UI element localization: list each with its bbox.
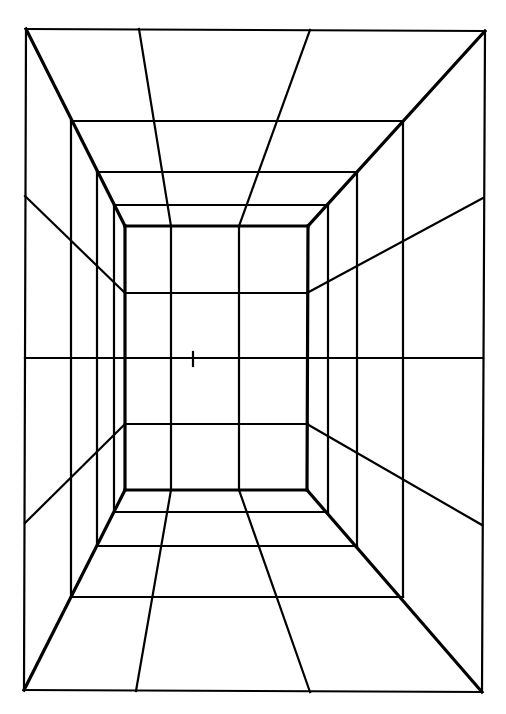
outer-frame-line <box>482 31 485 692</box>
outer-frame-line <box>24 29 26 690</box>
outer-frame-line <box>24 690 482 692</box>
perspective-room-drawing: One-point perspective room grid <box>0 0 506 714</box>
floor-right-edge <box>307 490 482 692</box>
right-wall-ray <box>307 198 483 293</box>
left-wall-ray <box>25 424 125 523</box>
outer-frame-line <box>26 29 485 31</box>
floor-ray <box>239 490 310 692</box>
ceiling-left-edge <box>26 29 125 226</box>
floor-left-edge <box>24 490 125 690</box>
ceiling-right-edge <box>308 31 485 226</box>
ceiling-ray <box>239 30 310 226</box>
left-wall-ray <box>25 196 125 293</box>
perspective-grid-svg <box>0 0 506 714</box>
floor-ray <box>136 490 171 691</box>
right-wall-ray <box>307 424 482 525</box>
ceiling-ray <box>139 29 171 226</box>
